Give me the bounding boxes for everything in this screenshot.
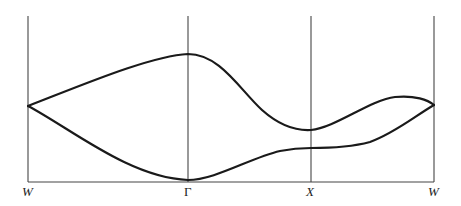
- band-structure-diagram: W Γ X W: [0, 0, 461, 206]
- lower-branch-curve: [28, 105, 434, 180]
- label-w-left: W: [22, 184, 34, 199]
- label-gamma: Γ: [184, 184, 192, 199]
- label-x: X: [305, 184, 315, 199]
- upper-branch-curve: [28, 54, 434, 130]
- label-w-right: W: [428, 184, 440, 199]
